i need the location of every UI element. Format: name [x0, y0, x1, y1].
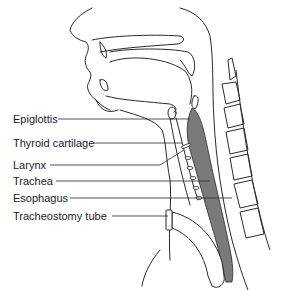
epiglottis-shape [168, 107, 176, 119]
label-esophagus: Esophagus [13, 192, 68, 204]
neck-front [120, 110, 171, 260]
label-tracheostomy-tube: Tracheostomy tube [13, 210, 107, 222]
jaw [106, 96, 176, 112]
lower-teeth [100, 79, 108, 90]
uvula [192, 96, 198, 109]
label-trachea: Trachea [13, 175, 53, 187]
cervical-spine [222, 58, 270, 250]
tongue [110, 58, 192, 104]
label-thyroid-cartilage: Thyroid cartilage [13, 137, 94, 149]
neck-skin [142, 250, 160, 286]
leader-larynx [50, 150, 184, 165]
label-larynx: Larynx [13, 159, 46, 171]
anatomy-diagram: Epiglottis Thyroid cartilage Larynx Trac… [0, 0, 286, 290]
face-profile [70, 8, 110, 110]
soft-palate [110, 49, 195, 76]
label-epiglottis: Epiglottis [13, 113, 58, 125]
mandible [96, 100, 118, 112]
upper-teeth [100, 42, 107, 58]
